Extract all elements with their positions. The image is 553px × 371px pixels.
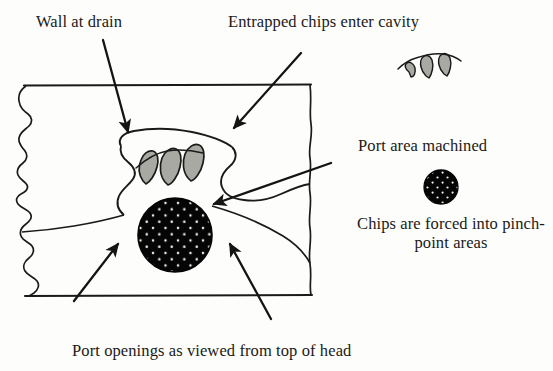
- port-opening-icon: [138, 198, 212, 272]
- label-wall-at-drain: Wall at drain: [36, 12, 122, 31]
- label-port-area-machined: Port area machined: [358, 136, 487, 155]
- label-chips-forced-into-pinch-points: Chips are forced into pinch-point areas: [356, 214, 546, 252]
- arrow-port-left: [74, 244, 118, 301]
- arrow-entrapped-chips: [234, 53, 301, 128]
- arrow-port-right: [230, 244, 271, 319]
- figure-canvas: Wall at drain Entrapped chips enter cavi…: [0, 0, 553, 371]
- chip-curl-icon: [398, 54, 461, 78]
- diagram-vector-layer: [0, 0, 553, 371]
- label-entrapped-chips: Entrapped chips enter cavity: [228, 12, 419, 31]
- entrapped-chips-group: [136, 144, 204, 185]
- caption-port-openings: Port openings as viewed from top of head: [72, 341, 351, 360]
- port-opening-legend-icon: [424, 170, 458, 204]
- leader-arrows: [74, 40, 331, 319]
